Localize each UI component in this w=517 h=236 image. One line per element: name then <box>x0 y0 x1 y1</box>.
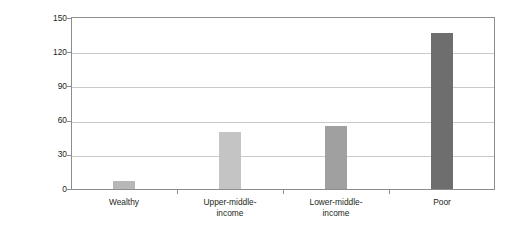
x-tick-mark-3 <box>389 190 390 194</box>
y-tick-label-60: 60 <box>39 116 67 124</box>
bars-group <box>71 17 495 190</box>
x-label-3-line-0: Poor <box>389 197 495 208</box>
y-tick-label-30: 30 <box>39 150 67 158</box>
x-label-2-line-1: income <box>283 208 389 219</box>
y-tick-label-0: 0 <box>39 185 67 193</box>
y-tick-label-90: 90 <box>39 82 67 90</box>
x-axis-label-1: Upper-middle-income <box>177 197 283 218</box>
x-axis-label-2: Lower-middle-income <box>283 197 389 218</box>
x-axis-label-0: Wealthy <box>71 197 177 208</box>
x-axis-labels: WealthyUpper-middle-incomeLower-middle-i… <box>71 197 495 229</box>
y-tick-label-150: 150 <box>39 14 67 22</box>
bar-wealthy <box>113 181 135 189</box>
bar-lower-middle-income <box>325 126 347 189</box>
x-tick-mark-2 <box>283 190 284 194</box>
bar-poor <box>431 33 453 189</box>
x-tick-mark-1 <box>177 190 178 194</box>
x-label-2-line-0: Lower-middle- <box>283 197 389 208</box>
bar-upper-middle-income <box>219 132 241 189</box>
x-label-1-line-1: income <box>177 208 283 219</box>
y-axis-ticks: 0306090120150 <box>36 0 67 236</box>
x-axis-label-3: Poor <box>389 197 495 208</box>
bar-chart: Number of Deaths Before Age 5 per 1,000 … <box>0 0 517 236</box>
y-tick-label-120: 120 <box>39 48 67 56</box>
x-label-0-line-0: Wealthy <box>71 197 177 208</box>
x-label-1-line-0: Upper-middle- <box>177 197 283 208</box>
